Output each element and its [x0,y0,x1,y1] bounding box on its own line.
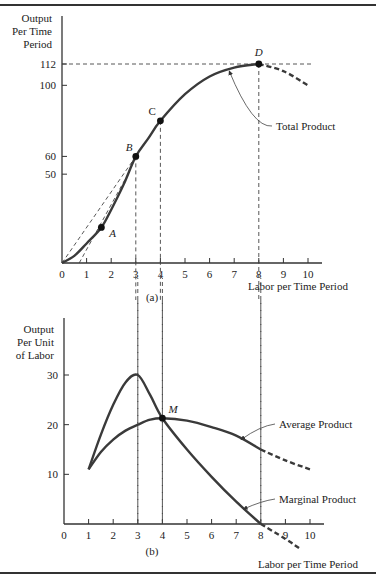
x-tick-label: 10 [303,268,315,280]
x-tick-label: 7 [233,529,239,541]
point-label: B [126,141,133,153]
panel-label: (a) [146,291,159,304]
panel-a-total-product: OutputPer TimePeriod01234567891011210060… [12,12,348,304]
x-tick-label: 5 [182,268,188,280]
panel-label: (b) [146,545,159,558]
x-tick-label: 6 [207,268,213,280]
point-c [157,117,164,124]
reference-line-ray [62,156,136,263]
y-tick-label: 60 [45,150,57,162]
y-axis-label: Per Unit [17,336,54,348]
annotation-arrow [229,71,272,126]
x-tick-label: 10 [305,529,317,541]
x-tick-label: 5 [184,529,190,541]
annotation-label: Marginal Product [279,493,356,505]
y-tick-label: 10 [47,468,59,480]
y-tick-label: 100 [40,79,57,91]
y-tick-label: 112 [40,58,56,70]
point-b [132,153,139,160]
series-marginal-product [89,374,261,524]
point-a [98,224,105,231]
x-tick-label: 2 [108,268,114,280]
reference-line-tangent [79,178,126,263]
point-m [159,415,166,422]
point-label: A [108,227,116,239]
point-label: D [254,46,263,58]
x-tick-label: 3 [135,529,141,541]
x-tick-label: 9 [283,529,289,541]
y-tick-label: 30 [47,369,59,381]
y-axis-label: Per Time [12,25,52,37]
production-curves-figure: OutputPer TimePeriod01234567891011210060… [0,0,376,579]
y-axis-label: Output [21,12,52,24]
point-d [255,61,262,68]
panel-b-average-marginal-product: OutputPer Unitof Labor012345678910302010… [16,278,359,570]
x-tick-label: 8 [258,529,264,541]
series-average-product [89,418,261,469]
x-tick-label: 9 [281,268,287,280]
annotation-label: Total Product [276,120,335,132]
x-tick-label: 0 [61,529,67,541]
x-axis-label: Labor per Time Period [248,280,348,292]
y-axis-label: Period [23,38,52,50]
y-tick-label: 50 [45,168,57,180]
x-tick-label: 2 [110,529,116,541]
series-total-product-declining- [259,64,308,85]
annotation-arrow [241,424,275,440]
x-tick-label: 1 [84,268,90,280]
point-label: C [148,105,155,117]
x-tick-label: 4 [160,529,166,541]
point-label: M [167,403,178,415]
x-tick-label: 0 [59,268,65,280]
x-axis-label: Labor per Time Period [258,558,358,570]
annotation-label: Average Product [279,418,352,430]
x-tick-label: 7 [231,268,237,280]
y-axis-label: of Labor [16,349,55,361]
x-tick-label: 6 [209,529,215,541]
series-average-product-extended- [261,450,310,470]
series-marginal-product-negative- [261,524,300,549]
x-tick-label: 1 [86,529,92,541]
y-tick-label: 20 [47,419,59,431]
annotation-arrow [244,499,275,509]
y-axis-label: Output [23,323,54,335]
